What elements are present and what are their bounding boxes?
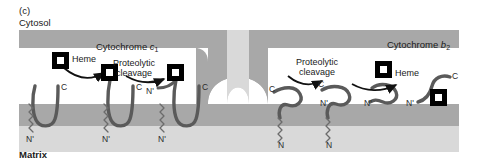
cytochrome-b2-prefix: Cytochrome	[387, 39, 441, 50]
cytochrome-import-diagram: (c) Cytosol Matrix Heme Heme Cytochrome …	[0, 0, 477, 167]
heme-label-left: Heme	[72, 54, 96, 64]
terminus-c1-stage3-n: N'	[158, 134, 166, 144]
proteolytic-cleavage-label-left: Proteolytic cleavage	[113, 58, 155, 78]
cleavage-left-line1: Proteolytic	[113, 58, 155, 68]
terminus-c1-stage1-c: C	[61, 82, 67, 92]
cytochrome-c1-label: Cytochrome c1	[96, 42, 159, 53]
crista-lumen-body	[227, 48, 249, 104]
inner-membrane-band	[19, 104, 459, 126]
cytosol-label: Cytosol	[19, 18, 51, 29]
terminus-b2-stage3-n: N'	[364, 98, 372, 108]
terminus-b2-stage4-n: N'	[406, 98, 414, 108]
cleavage-right-line1: Proteolytic	[296, 57, 338, 67]
matrix-label: Matrix	[19, 150, 47, 161]
terminus-c1-stage2-n: N'	[102, 134, 110, 144]
cytochrome-c1-prefix: Cytochrome	[96, 41, 150, 52]
membrane-diagram-canvas	[0, 0, 477, 167]
heme-on-b2-stage-4	[430, 89, 447, 106]
heme-free-left	[52, 52, 69, 69]
terminus-c1-stage3-c: C	[202, 82, 208, 92]
cytochrome-c1-subscript: 1	[155, 46, 159, 53]
terminus-b2-stage2-c: C	[318, 79, 324, 89]
proteolytic-cleavage-label-right: Proteolytic cleavage	[296, 57, 338, 77]
terminus-c1-stage2-c: C	[136, 82, 142, 92]
terminus-b2-stage2-n: N	[326, 140, 332, 150]
panel-letter: (c)	[19, 6, 30, 17]
cytochrome-b2-label: Cytochrome b2	[387, 40, 450, 51]
terminus-b2-stage4-c: C	[452, 71, 458, 81]
terminus-b2-stage3-nprime-upper: N'	[320, 98, 328, 108]
terminus-b2-stage1-n: N	[278, 140, 284, 150]
cytochrome-c1-italic: c	[150, 41, 155, 52]
cytochrome-b2-subscript: 2	[446, 44, 450, 51]
terminus-c1-stage3-nprime-upper: N'	[146, 86, 154, 96]
heme-free-right	[375, 61, 392, 78]
terminus-b2-stage1-c: C	[269, 84, 275, 94]
heme-on-c1-stage-3	[167, 64, 184, 81]
terminus-c1-stage1-n: N'	[26, 134, 34, 144]
cleavage-right-line2: cleavage	[296, 67, 338, 77]
cleavage-left-line2: cleavage	[113, 68, 155, 78]
matrix-band	[19, 126, 459, 152]
heme-label-right: Heme	[395, 68, 419, 78]
